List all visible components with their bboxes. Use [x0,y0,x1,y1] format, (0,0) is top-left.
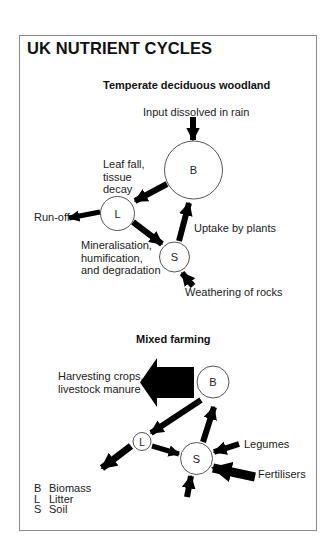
arrow-farming-weathering [187,476,191,497]
farming-node-biomass: B [197,366,229,398]
arrow-fertilisers [213,468,255,477]
arrow-weathering [182,273,193,286]
svg-text:S: S [193,453,200,465]
svg-text:L: L [114,208,120,220]
legend-item-biomass: B Biomass [34,483,91,494]
svg-text:B: B [209,376,216,388]
woodland-node-litter: L [101,197,135,231]
arrow-farming-runoff [102,446,131,468]
svg-text:B: B [190,164,197,176]
arrow-leaf-fall [135,184,167,201]
nutrient-cycle-diagram: B L S B L S [0,0,336,557]
arrow-legumes [214,444,239,452]
woodland-node-soil: S [160,242,190,272]
legend-item-soil: S Soil [34,504,91,515]
arrow-uptake [179,203,189,241]
svg-text:L: L [139,437,145,448]
woodland-node-biomass: B [165,141,223,199]
legend: B Biomass L Litter S Soil [34,483,91,515]
arrow-farming-litter-fall [151,400,201,433]
arrow-mineralisation [133,222,162,244]
arrow-runoff [69,212,100,218]
farming-node-litter: L [133,433,151,451]
arrow-farming-mineralisation [152,446,179,454]
svg-text:S: S [171,251,178,263]
arrow-harvest [140,358,194,407]
farming-node-soil: S [181,443,213,475]
arrow-farming-uptake [203,407,214,442]
